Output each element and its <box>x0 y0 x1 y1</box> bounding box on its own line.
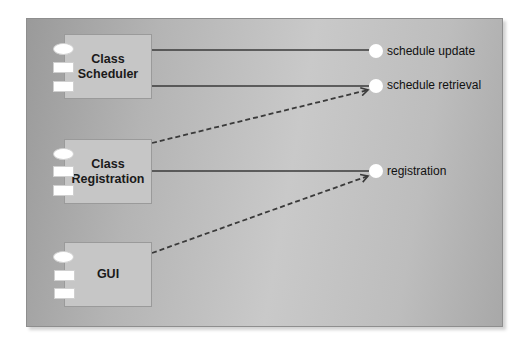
component-class-registration[interactable]: Class Registration <box>64 139 152 204</box>
dependency-registration-to-retrieval <box>152 90 368 143</box>
component-label-line2: Scheduler <box>78 67 138 82</box>
component-oval-icon <box>53 148 74 160</box>
component-gui[interactable]: GUI <box>64 242 152 307</box>
component-label-line2: Registration <box>72 172 145 187</box>
interface-circle-registration[interactable] <box>369 164 383 178</box>
interface-label-schedule-update: schedule update <box>387 44 475 58</box>
component-port-icon <box>53 62 74 73</box>
component-label-line1: Class <box>78 52 138 67</box>
interface-circle-schedule-update[interactable] <box>369 44 383 58</box>
component-port-icon <box>53 166 74 177</box>
interface-label-registration: registration <box>387 164 446 178</box>
component-port-icon <box>53 185 74 196</box>
component-class-scheduler[interactable]: Class Scheduler <box>64 34 152 99</box>
component-port-icon <box>54 270 75 281</box>
component-label-line1: GUI <box>97 267 119 282</box>
component-oval-icon <box>53 251 74 263</box>
interface-circle-schedule-retrieval[interactable] <box>369 79 383 93</box>
interface-label-schedule-retrieval: schedule retrieval <box>387 78 481 92</box>
component-label-line1: Class <box>72 157 145 172</box>
component-port-icon <box>53 81 74 92</box>
component-port-icon <box>54 288 75 299</box>
dependency-gui-to-registration <box>152 176 368 253</box>
component-oval-icon <box>53 43 74 55</box>
